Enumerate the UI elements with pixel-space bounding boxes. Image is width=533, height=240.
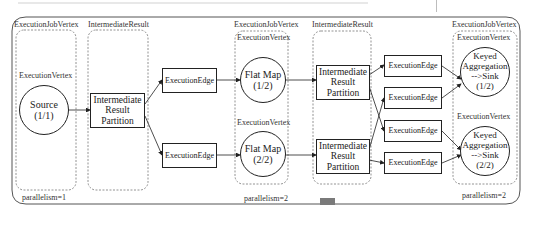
result-partition: Intermediate Result Partition — [316, 139, 370, 174]
sink-parallelism: parallelism=2 — [462, 191, 506, 200]
execution-edge: ExecutionEdge — [162, 143, 217, 168]
sink-vertex-1: Keyed Aggregation -->Sink (1/2) — [460, 47, 510, 97]
source-executionvertex-label: ExecutionVertex — [19, 71, 72, 80]
source-jobvertex-title: ExecutionJobVertex — [14, 20, 78, 29]
execution-edge: ExecutionEdge — [384, 87, 442, 109]
sink-executionvertex-label: ExecutionVertex — [457, 33, 510, 42]
sink-executionvertex-label: ExecutionVertex — [457, 112, 510, 121]
result-2-title: IntermediateResult — [312, 20, 373, 29]
result-partition: Intermediate Result Partition — [316, 65, 370, 100]
scroll-marker — [320, 198, 335, 205]
flatmap-parallelism: parallelism=2 — [244, 194, 288, 203]
execution-edge: ExecutionEdge — [384, 120, 442, 142]
result-partition: Intermediate Result Partition — [90, 93, 145, 128]
flatmap-executionvertex-label: ExecutionVertex — [237, 118, 290, 127]
execution-edge: ExecutionEdge — [162, 68, 217, 93]
result-partition-label: Intermediate Result Partition — [93, 95, 141, 126]
flatmap-vertex-1: Flat Map (1/2) — [240, 57, 286, 103]
flatmap-jobvertex-title: ExecutionJobVertex — [234, 20, 298, 29]
flatmap-executionvertex-label: ExecutionVertex — [237, 33, 290, 42]
flatmap-vertex-2: Flat Map (2/2) — [240, 131, 286, 177]
result-1-title: IntermediateResult — [88, 20, 149, 29]
result-partition-label: Intermediate Result Partition — [319, 67, 367, 98]
source-parallelism: parallelism=1 — [22, 193, 66, 202]
sink-vertex-2: Keyed Aggregation -->Sink (2/2) — [460, 126, 510, 176]
sink-jobvertex-title: ExecutionJobVertex — [452, 20, 516, 29]
execution-edge: ExecutionEdge — [384, 152, 442, 174]
result-partition-label: Intermediate Result Partition — [319, 141, 367, 172]
execution-edge: ExecutionEdge — [384, 55, 442, 77]
source-vertex: Source (1/1) — [19, 85, 69, 135]
